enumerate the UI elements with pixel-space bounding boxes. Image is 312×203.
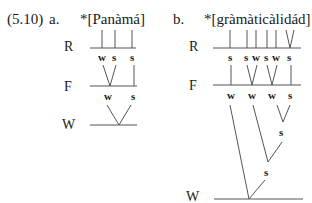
panel-a-label: a. — [49, 11, 59, 27]
tier-label-R: R — [64, 39, 74, 54]
tier-label-F: F — [64, 79, 72, 94]
panel-a-tree: R F W w s s w s — [62, 30, 137, 132]
r-node: s — [244, 51, 249, 63]
f-node: w — [104, 90, 112, 102]
w-node: s — [264, 166, 269, 178]
f-node: s — [288, 89, 293, 101]
tier-label-W: W — [62, 117, 76, 132]
r-node: s — [130, 51, 135, 63]
r-node: s — [228, 51, 233, 63]
f-node: w — [227, 89, 235, 101]
tier-label-F: F — [189, 78, 197, 93]
r-node: s — [112, 51, 117, 63]
branch-v — [253, 105, 282, 162]
branch-v — [286, 30, 294, 48]
panel-b-label: b. — [173, 11, 184, 27]
branch-v — [230, 105, 265, 199]
branch-v — [247, 65, 257, 85]
f-node: w — [268, 89, 276, 101]
r-node: w — [272, 51, 280, 63]
tier-label-W: W — [186, 189, 200, 203]
w-node: s — [279, 126, 284, 138]
tier-label-R: R — [189, 39, 199, 54]
branch-v — [267, 65, 277, 85]
panel-a-word: *[Panàmá] — [80, 11, 145, 27]
r-node: s — [287, 51, 292, 63]
r-node: s — [264, 51, 269, 63]
r-node: w — [252, 51, 260, 63]
panel-b-tree: R F W s s w s w s w w w s s s — [186, 30, 303, 203]
panel-b-word: *[gràmàticàlidád] — [204, 11, 311, 27]
f-node: w — [248, 89, 256, 101]
r-node: w — [98, 51, 106, 63]
f-node: s — [131, 90, 136, 102]
example-number: (5.10) — [7, 11, 43, 28]
prosodic-tree-diagram: (5.10) a. *[Panàmá] b. *[gràmàticàlidád]… — [0, 0, 312, 203]
branch-v — [277, 105, 290, 122]
branch-v — [103, 65, 116, 86]
branch-v — [107, 105, 131, 125]
